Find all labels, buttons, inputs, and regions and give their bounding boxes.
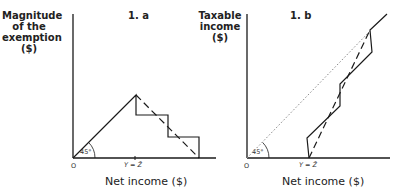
panel-b-dashed-line bbox=[309, 30, 370, 158]
panel-a-dashed-phaseout bbox=[136, 95, 199, 158]
panel-a-45-degree-arc bbox=[89, 142, 95, 158]
panel-a-exemption-step-line bbox=[73, 95, 199, 158]
panel-b-45-degree-arc bbox=[263, 142, 269, 158]
panel-b-dotted-45-line bbox=[247, 30, 371, 158]
panel-b-graphics bbox=[247, 14, 390, 158]
panel-a-graphics bbox=[73, 14, 216, 160]
diagram-canvas bbox=[0, 0, 396, 192]
